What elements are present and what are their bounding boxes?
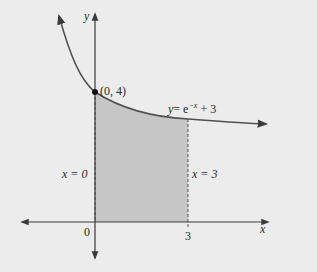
tick-label-3: 3 — [185, 229, 191, 243]
x-axis-label: x — [259, 222, 266, 236]
tick-label-0: 0 — [84, 225, 90, 239]
function-curve — [59, 16, 266, 124]
point-0-4 — [92, 89, 98, 95]
function-label: y= e−x + 3 — [167, 101, 216, 116]
y-axis-label: y — [83, 9, 90, 23]
bound-label-right: x = 3 — [191, 167, 217, 181]
point-label: (0, 4) — [100, 84, 126, 98]
bound-label-left: x = 0 — [61, 167, 87, 181]
graph: (0, 4) y x 0 3 y= e−x + 3 x = 0 x = 3 — [0, 0, 317, 272]
